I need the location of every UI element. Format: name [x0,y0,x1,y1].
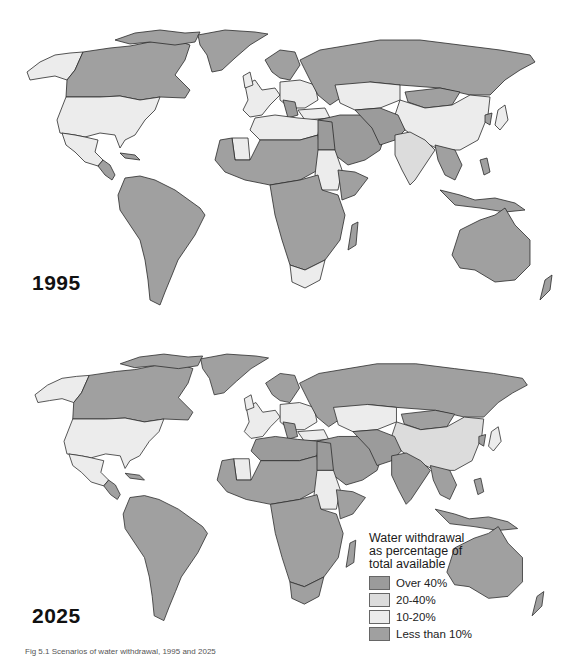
region-north-africa [251,436,319,460]
region-kazakhstan [335,82,400,110]
legend-swatch-10-20 [369,610,390,624]
legend-item-10-20: 10-20% [369,608,559,625]
region-greenland [198,30,268,72]
region-canada [66,38,190,100]
region-caribbean [120,153,140,160]
legend-title: Water withdrawal as percentage of total … [369,532,559,571]
legend-swatch-20-40 [369,593,390,607]
region-japan [489,427,502,451]
region-indonesia [435,509,517,530]
region-japan [495,105,508,130]
legend-label-less-10: Less than 10% [396,628,472,640]
region-australia [452,208,530,282]
legend-swatch-over-40 [369,576,390,590]
figure-caption: Fig 5.1 Scenarios of water withdrawal, 1… [25,647,216,656]
region-madagascar [346,540,356,567]
region-south-america [118,176,205,305]
year-label-1995: 1995 [32,271,81,295]
region-scandinavia [266,373,300,402]
region-indonesia [440,190,525,212]
legend-title-line3: total available [369,558,559,571]
region-philippines [474,478,484,494]
region-korea [479,435,486,447]
legend-item-20-40: 20-40% [369,591,559,608]
region-greenland [201,354,269,395]
legend-item-less-10: Less than 10% [369,625,559,642]
region-egypt [317,441,333,470]
map-legend: Water withdrawal as percentage of total … [369,532,559,642]
region-egypt [318,120,335,150]
region-mexico [62,133,103,166]
region-uk [244,395,254,411]
region-central-america [104,480,120,499]
region-horn-africa [336,490,365,519]
world-map-1995 [0,0,571,325]
region-madagascar [348,222,358,250]
region-uk [243,72,253,88]
region-philippines [480,158,490,175]
legend-swatch-less-10 [369,627,390,641]
region-central-america [98,160,115,180]
region-scandinavia [265,50,300,80]
region-kazakhstan [333,404,396,431]
region-west-africa [217,456,319,504]
legend-label-10-20: 10-20% [396,611,436,623]
region-south-america [123,496,207,621]
legend-label-over-40: Over 40% [396,577,447,589]
region-north-africa [250,115,320,140]
region-korea [485,113,492,125]
map-panel-1995: 1995 [0,0,571,325]
region-arctic-islands [115,30,200,45]
region-caribbean [125,473,144,480]
region-new-zealand [540,275,552,300]
region-arctic-islands [120,354,202,369]
region-mexico [69,454,109,486]
legend-item-over-40: Over 40% [369,574,559,591]
region-horn-africa [338,170,368,200]
year-label-2025: 2025 [32,604,81,628]
region-west-africa [215,135,320,185]
region-canada [73,362,193,422]
legend-label-20-40: 20-40% [396,594,436,606]
